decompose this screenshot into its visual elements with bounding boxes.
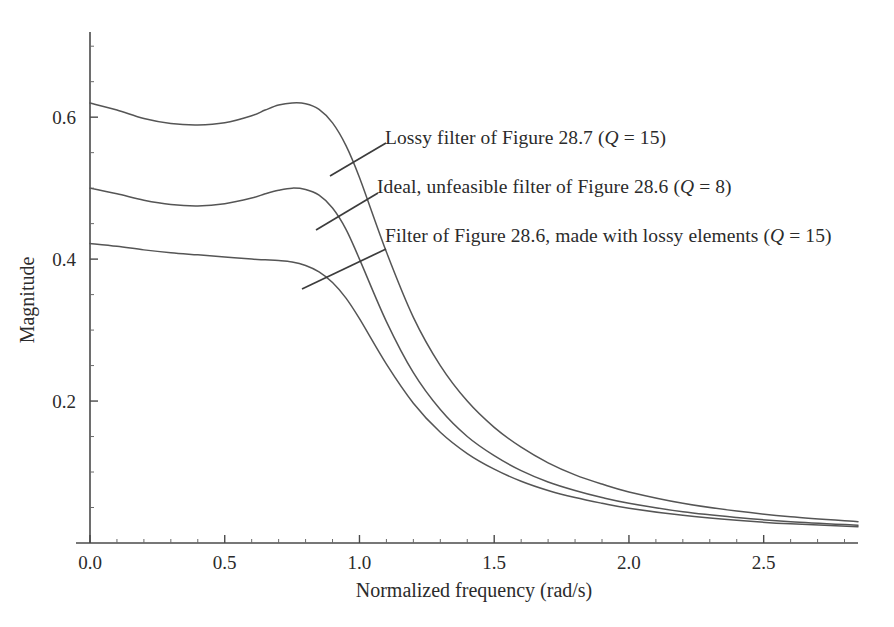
x-axis-tick-labels: 0.00.51.01.52.02.5 xyxy=(78,552,775,573)
x-tick-label: 0.5 xyxy=(213,552,237,573)
leader-line-lossy-287 xyxy=(330,143,386,176)
annotation-q-symbol: Q xyxy=(680,176,694,197)
leader-line-ideal-286 xyxy=(316,193,378,230)
annotation-q-symbol: Q xyxy=(770,225,784,246)
x-tick-label: 2.5 xyxy=(752,552,776,573)
y-axis-ticks xyxy=(90,46,98,507)
y-axis-tick-labels: 0.20.40.6 xyxy=(52,107,76,412)
annotation-text-before: Filter of Figure 28.6, made with lossy e… xyxy=(385,225,770,246)
x-tick-label: 2.0 xyxy=(617,552,641,573)
annotation-text-after: = 15) xyxy=(784,225,831,246)
x-axis-title: Normalized frequency (rad/s) xyxy=(356,579,593,602)
y-tick-label: 0.6 xyxy=(52,107,76,128)
y-tick-label: 0.4 xyxy=(52,249,76,270)
annotation-lossy-elements-286: Filter of Figure 28.6, made with lossy e… xyxy=(385,225,832,247)
annotation-lossy-filter-287: Lossy filter of Figure 28.7 (Q = 15) xyxy=(385,127,666,149)
x-axis-ticks xyxy=(90,535,845,543)
y-axis-title: Magnitude xyxy=(16,257,39,344)
annotation-q-symbol: Q xyxy=(605,127,619,148)
x-tick-label: 1.5 xyxy=(482,552,506,573)
x-tick-label: 0.0 xyxy=(78,552,102,573)
annotation-text-after: = 8) xyxy=(694,176,732,197)
plot-canvas: 0.00.51.01.52.02.5 0.20.40.6 Normalized … xyxy=(0,0,894,627)
curve-series-0 xyxy=(90,103,858,522)
annotation-ideal-filter-286: Ideal, unfeasible filter of Figure 28.6 … xyxy=(377,176,732,198)
y-tick-label: 0.2 xyxy=(52,391,76,412)
annotation-text-before: Ideal, unfeasible filter of Figure 28.6 … xyxy=(377,176,680,197)
annotation-text-before: Lossy filter of Figure 28.7 ( xyxy=(385,127,605,148)
chart-figure: 0.00.51.01.52.02.5 0.20.40.6 Normalized … xyxy=(0,0,894,627)
x-tick-label: 1.0 xyxy=(348,552,372,573)
annotation-text-after: = 15) xyxy=(619,127,666,148)
curve-series-2 xyxy=(90,244,858,527)
data-curves xyxy=(90,103,858,527)
